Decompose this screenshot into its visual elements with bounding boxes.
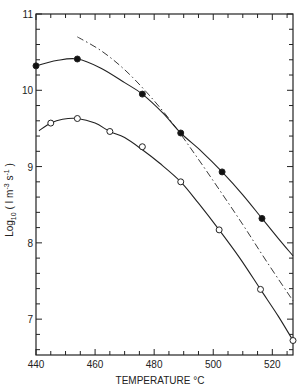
series-line [36, 59, 293, 256]
y-axis: 7891011 [22, 9, 293, 350]
open-data-point [216, 227, 222, 233]
y-tick-label: 9 [27, 162, 33, 173]
series-calculated [77, 37, 293, 301]
open-data-point [258, 286, 264, 292]
y-tick-label: 8 [27, 238, 33, 249]
open-data-point [48, 120, 54, 126]
filled-data-point [33, 63, 39, 69]
plot-border [36, 14, 293, 355]
x-tick-label: 480 [146, 359, 163, 370]
series-line [77, 37, 293, 301]
open-data-point [139, 144, 145, 150]
open-data-point [74, 116, 80, 122]
plot-frame [36, 14, 293, 355]
series-layer [33, 37, 296, 344]
series-open-circles [39, 116, 296, 344]
open-data-point [178, 179, 184, 185]
x-tick-label: 440 [28, 359, 45, 370]
filled-data-point [259, 215, 265, 221]
x-tick-label: 500 [205, 359, 222, 370]
filled-data-point [139, 91, 145, 97]
chart: 440460480500520 7891011 TEMPERATURE °C L… [0, 0, 305, 390]
filled-data-point [74, 56, 80, 62]
series-line [39, 118, 293, 340]
open-data-point [107, 128, 113, 134]
filled-data-point [178, 130, 184, 136]
y-axis-label: Log10 ( I m-3 s-1 ) [3, 163, 17, 237]
x-axis-label: TEMPERATURE °C [116, 375, 205, 386]
y-tick-label: 10 [22, 85, 34, 96]
filled-data-point [219, 169, 225, 175]
series-filled-circles [33, 56, 293, 256]
open-data-point [290, 338, 296, 344]
x-tick-label: 520 [264, 359, 281, 370]
y-tick-label: 7 [27, 314, 33, 325]
x-axis: 440460480500520 [28, 14, 287, 370]
x-tick-label: 460 [87, 359, 104, 370]
y-tick-label: 11 [23, 9, 34, 20]
